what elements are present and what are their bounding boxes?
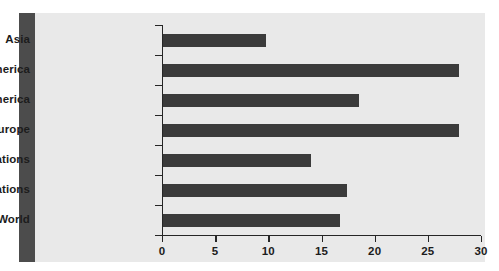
x-axis-tick-label: 25 (408, 245, 448, 257)
category-label: Western Europe (0, 123, 30, 135)
x-axis-tick (322, 236, 323, 242)
x-axis-tick-label: 10 (248, 245, 288, 257)
y-axis-tick (155, 25, 162, 26)
x-axis-tick (428, 236, 429, 242)
category-label: World (0, 213, 30, 225)
y-axis-tick (155, 85, 162, 86)
x-axis-tick (375, 236, 376, 242)
y-axis-tick (155, 175, 162, 176)
x-axis-tick (215, 236, 216, 242)
category-label: Latin America (0, 63, 30, 75)
x-axis-tick-label: 5 (195, 245, 235, 257)
y-axis-tick (155, 55, 162, 56)
category-label: Asia (0, 33, 30, 45)
x-axis-tick-label: 30 (461, 245, 499, 257)
plot-area: AsiaLatin AmericaNorth AmericaWestern Eu… (35, 13, 485, 262)
bar-developed-nations (163, 184, 347, 197)
y-axis-tick (155, 145, 162, 146)
x-axis-tick (162, 236, 163, 242)
bar-developing-nations (163, 154, 311, 167)
x-axis-tick-label: 0 (142, 245, 182, 257)
y-axis-tick (155, 205, 162, 206)
category-label: Developed Nations (0, 183, 30, 195)
x-axis-tick-label: 20 (355, 245, 395, 257)
category-label: North America (0, 93, 30, 105)
x-axis-tick (481, 236, 482, 242)
bar-asia (163, 34, 266, 47)
bar-western-europe (163, 124, 459, 137)
x-axis-tick-label: 15 (302, 245, 342, 257)
x-axis-tick (268, 236, 269, 242)
y-axis-tick (155, 235, 162, 236)
y-axis-tick (155, 115, 162, 116)
category-label: Developing Nations (0, 153, 30, 165)
bar-latin-america (163, 64, 459, 77)
bar-north-america (163, 94, 359, 107)
bar-world (163, 214, 340, 227)
chart-figure: AsiaLatin AmericaNorth AmericaWestern Eu… (19, 13, 485, 262)
